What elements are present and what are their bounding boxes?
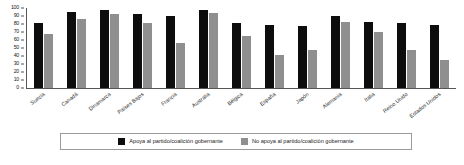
y-axis-tick-mark	[21, 32, 24, 33]
y-axis-tick-mark	[21, 80, 24, 81]
bar	[176, 43, 185, 88]
bar	[77, 19, 86, 88]
bar	[44, 34, 53, 88]
y-axis-tick-label: 50	[14, 45, 19, 50]
x-axis-label-cell: España	[259, 90, 292, 126]
y-axis-tick-label: 10	[14, 77, 19, 82]
y-axis-tick-mark	[21, 88, 24, 89]
bar	[364, 22, 373, 88]
bar-group	[126, 8, 159, 88]
x-axis-tick-label-text: Italia	[363, 91, 376, 103]
bar-group	[93, 8, 126, 88]
plot-area	[26, 8, 456, 89]
bar-chart: 1009080706050403020100 SueciaCanadáDinam…	[0, 0, 464, 165]
x-axis-label-cell: Australia	[192, 90, 225, 126]
y-axis-tick-label: 20	[14, 69, 19, 74]
bar-group	[291, 8, 324, 88]
y-axis-tick-label: 100	[11, 5, 19, 10]
y-axis-tick-label: 40	[14, 53, 19, 58]
bar	[242, 36, 251, 88]
bar	[199, 10, 208, 88]
x-axis-label-cell: Países Bajos	[126, 90, 159, 126]
y-axis-tick-label: 90	[14, 13, 19, 18]
bar	[143, 23, 152, 88]
bar	[232, 23, 241, 88]
legend-item[interactable]: Apoya al partido/coalición gobernante	[118, 138, 223, 145]
bar	[133, 14, 142, 88]
legend-swatch-icon	[118, 138, 125, 145]
y-axis-tick-label: 70	[14, 29, 19, 34]
bar	[341, 22, 350, 88]
y-axis-tick-label: 30	[14, 61, 19, 66]
legend-label: No apoya al partido/coalición gobernante	[252, 138, 354, 145]
x-axis-tick-label-text: Bélgica	[226, 91, 244, 107]
bar	[67, 12, 76, 88]
bar	[34, 23, 43, 88]
x-axis-tick-label-text: Alemania	[322, 91, 343, 110]
legend-item[interactable]: No apoya al partido/coalición gobernante	[241, 138, 354, 145]
bar-group	[192, 8, 225, 88]
bar	[430, 25, 439, 88]
bar-groups	[27, 8, 456, 88]
y-axis-tick-label: 80	[14, 21, 19, 26]
bar	[298, 26, 307, 88]
bar-group	[324, 8, 357, 88]
x-axis-label-cell: Francia	[159, 90, 192, 126]
x-axis-tick-label-text: Francia	[160, 91, 178, 107]
bar-group	[390, 8, 423, 88]
bar-group	[60, 8, 93, 88]
bar	[110, 14, 119, 88]
y-axis-tick-mark	[21, 16, 24, 17]
x-axis-label-cell: Alemania	[325, 90, 358, 126]
bar	[209, 13, 218, 88]
y-axis-tick-mark	[21, 56, 24, 57]
y-axis-tick-mark	[21, 48, 24, 49]
y-axis-tick-label: 60	[14, 37, 19, 42]
x-axis-tick-label-text: Canadá	[60, 91, 79, 107]
y-axis-tick-mark	[21, 24, 24, 25]
y-axis-tick-mark	[21, 72, 24, 73]
bar	[397, 23, 406, 88]
x-axis-tick-label-text: Australia	[190, 91, 210, 109]
y-axis-tick-mark	[21, 40, 24, 41]
x-axis-tick-label-text: Japón	[295, 91, 310, 105]
x-axis-tick-label-text: Suecia	[29, 91, 46, 106]
x-axis-label-cell: Suecia	[27, 90, 60, 126]
y-axis-tick-mark	[21, 64, 24, 65]
bar-group	[258, 8, 291, 88]
bar	[331, 16, 340, 88]
bar	[265, 25, 274, 88]
chart-legend: Apoya al partido/coalición gobernanteNo …	[60, 133, 412, 150]
x-axis-label-cell: Bélgica	[225, 90, 258, 126]
x-axis-label-cell: Estados Unidos	[424, 90, 457, 126]
bar-group	[357, 8, 390, 88]
bar	[100, 10, 109, 88]
y-axis: 1009080706050403020100	[0, 8, 24, 89]
x-axis-label-cell: Japón	[292, 90, 325, 126]
y-axis-tick-label: 0	[16, 85, 19, 90]
bar	[374, 32, 383, 88]
y-axis-tick-mark	[21, 8, 24, 9]
x-axis-tick-label-text: España	[259, 91, 277, 107]
bar-group	[225, 8, 258, 88]
bar-group	[27, 8, 60, 88]
x-axis-labels: SueciaCanadáDinamarcaPaíses BajosFrancia…	[27, 90, 457, 126]
legend-swatch-icon	[241, 138, 248, 145]
legend-label: Apoya al partido/coalición gobernante	[129, 138, 223, 145]
